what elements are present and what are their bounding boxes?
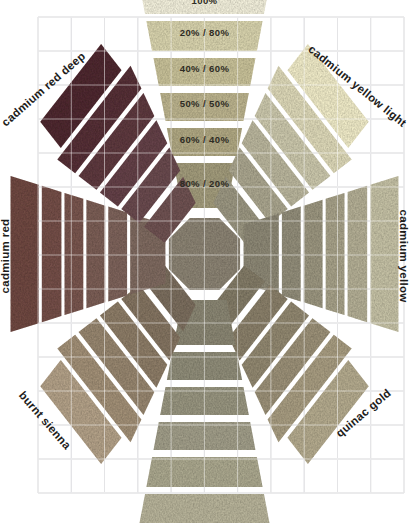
arm-label-w: cadmium red (0, 219, 11, 294)
swatch-w-2 (65, 193, 84, 315)
ratio-label-2: 40% / 60% (180, 63, 230, 74)
ratio-label-3: 50% / 50% (180, 98, 230, 109)
arm-label-e: cadmium yellow (398, 209, 409, 302)
swatch-w-1 (42, 186, 62, 322)
swatch-e-3 (304, 200, 323, 308)
ratio-label-5: 80% / 20% (180, 178, 230, 189)
swatch-e-0 (370, 176, 398, 332)
ratio-label-4: 60% / 40% (180, 134, 230, 145)
ratio-label-1: 20% / 80% (180, 27, 230, 38)
swatch-w-0 (11, 176, 39, 332)
ratio-label-0: 100% (192, 0, 218, 6)
swatch-e-1 (348, 186, 368, 322)
swatch-w-3 (86, 200, 105, 308)
swatch-s-0 (124, 494, 286, 523)
swatch-e-2 (326, 193, 345, 315)
mixing-wheel-svg: 100%20% / 80%40% / 60%50% / 50%60% / 40%… (0, 0, 409, 523)
color-mixing-chart: 100%20% / 80%40% / 60%50% / 50%60% / 40%… (0, 0, 409, 523)
